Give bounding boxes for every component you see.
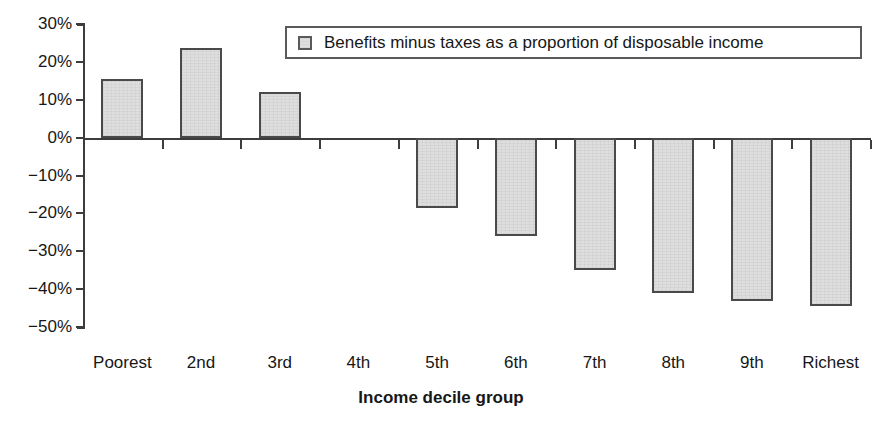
legend: Benefits minus taxes as a proportion of … xyxy=(285,26,862,59)
bar xyxy=(259,92,301,138)
y-axis-tick-label: −50% xyxy=(0,318,72,335)
y-axis-tick-label: 0% xyxy=(0,129,72,146)
y-axis-tick-label: −20% xyxy=(0,204,72,221)
bar xyxy=(495,138,537,236)
y-axis-tick-label: −40% xyxy=(0,280,72,297)
y-axis-tick-label: 30% xyxy=(0,15,72,32)
chart-container: 30%20%10%0%−10%−20%−30%−40%−50% Poorest2… xyxy=(0,0,882,424)
bar xyxy=(416,138,458,208)
bar xyxy=(731,138,773,302)
y-axis-tick xyxy=(76,61,85,63)
y-axis-tick xyxy=(76,23,85,25)
y-axis-tick-label: 10% xyxy=(0,91,72,108)
x-axis-tick xyxy=(713,140,715,149)
bar xyxy=(652,138,694,293)
bar xyxy=(101,79,143,137)
x-axis-title: Income decile group xyxy=(0,388,882,408)
x-axis-tick xyxy=(240,140,242,149)
bar xyxy=(180,48,222,138)
legend-swatch-icon xyxy=(298,36,312,50)
y-axis-tick xyxy=(76,288,85,290)
bar xyxy=(810,138,852,307)
x-axis-tick xyxy=(791,140,793,149)
y-axis-tick xyxy=(76,99,85,101)
x-axis-tick xyxy=(634,140,636,149)
x-axis-tick xyxy=(477,140,479,149)
y-axis-tick xyxy=(76,250,85,252)
y-axis-tick xyxy=(76,212,85,214)
x-axis-tick xyxy=(319,140,321,149)
x-axis-tick xyxy=(162,140,164,149)
y-axis-tick xyxy=(76,175,85,177)
bar xyxy=(574,138,616,271)
x-axis-tick xyxy=(398,140,400,149)
x-axis-category-label: Richest xyxy=(771,353,882,373)
y-axis-tick-label: 20% xyxy=(0,53,72,70)
x-axis-tick xyxy=(870,140,872,149)
y-axis-tick xyxy=(76,326,85,328)
y-axis-tick-label: −10% xyxy=(0,167,72,184)
y-axis-tick-label: −30% xyxy=(0,242,72,259)
x-axis-tick xyxy=(555,140,557,149)
legend-label: Benefits minus taxes as a proportion of … xyxy=(324,33,763,52)
